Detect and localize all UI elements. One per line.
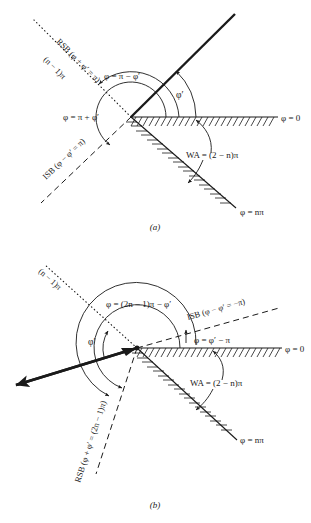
wedge-diffraction-figure: RSB (φ + φ′ = π) (n − 1)π φ = π − φ′ φ =… xyxy=(0,0,311,523)
label-phip-b: φ′ xyxy=(88,337,96,347)
label-wa-a: WA = (2 − n)π xyxy=(186,150,239,160)
label-phi-2n-minus-1-b: φ = (2n − 1)π − φ′ xyxy=(106,299,171,309)
label-n-minus-1-pi-a: (n − 1)π xyxy=(42,54,69,81)
panel-a: RSB (φ + φ′ = π) (n − 1)π φ = π − φ′ φ =… xyxy=(34,14,301,217)
hatch-lower-face-b xyxy=(132,353,232,430)
hatch-top-face-a xyxy=(131,117,274,126)
label-phi-npi-a: φ = nπ xyxy=(240,207,264,217)
caption-panel-a: (a) xyxy=(135,222,175,232)
arc-phip-b xyxy=(103,331,108,357)
label-phi-phip-minus-pi-b: φ = φ′ − π xyxy=(194,335,231,345)
incident-ray-a xyxy=(131,14,235,117)
panel-b: (n − 1)π φ = (2n − 1)π − φ′ ISB (φ − φ′ … xyxy=(16,264,305,484)
label-phi-pi-minus-phip-a: φ = π − φ′ xyxy=(104,71,140,81)
wa-leader-lower-a xyxy=(188,160,203,183)
arc-phi-pi-plus-phip-a xyxy=(96,82,166,145)
label-isb-b: ISB (φ − φ′ = −π) xyxy=(186,296,246,322)
hatch-lower-face-a xyxy=(126,122,231,203)
incident-ray-b-tail xyxy=(16,348,137,385)
label-wa-b: WA = (2 − n)π xyxy=(190,378,243,388)
label-isb-a: ISB (φ − φ′ = π) xyxy=(40,136,87,182)
label-phi-pi-plus-phip-a: φ = π + φ′ xyxy=(63,112,99,122)
label-phi-zero-b: φ = 0 xyxy=(285,344,305,354)
caption-panel-b: (b) xyxy=(135,500,175,510)
label-rsb-b: RSB (φ + φ′ = (2n − 1)π) xyxy=(72,399,108,483)
label-phip-a: φ′ xyxy=(176,90,184,100)
hatch-top-face-b xyxy=(137,348,280,357)
label-phi-npi-b: φ = nπ xyxy=(240,435,264,445)
label-phi-zero-a: φ = 0 xyxy=(281,113,301,123)
